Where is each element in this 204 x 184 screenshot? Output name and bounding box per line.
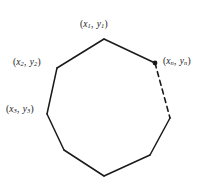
vertex-label-1: (x1, y1) bbox=[80, 20, 108, 30]
polygon-edge bbox=[57, 39, 104, 68]
vertex-label-3: (x3, y3) bbox=[6, 105, 34, 115]
label-2-close-paren: ) bbox=[37, 57, 40, 67]
polygon-figure: (x1, y1) (x2, y2) (x3, y3) (xn, yn) bbox=[0, 0, 204, 184]
vertex-label-2: (x2, y2) bbox=[13, 58, 41, 68]
polygon-vertex-group bbox=[153, 61, 158, 66]
vertex-label-n: (xn, yn) bbox=[163, 57, 191, 67]
polygon-edge-group bbox=[47, 39, 170, 176]
polygon-edge-dashed bbox=[155, 63, 170, 118]
polygon-edge bbox=[64, 150, 104, 176]
label-3-close-paren: ) bbox=[30, 104, 33, 114]
polygon-edge bbox=[104, 155, 150, 176]
polygon-edge bbox=[47, 68, 57, 114]
label-1-close-paren: ) bbox=[104, 19, 107, 29]
polygon-edge bbox=[104, 39, 155, 63]
polygon-edge bbox=[150, 118, 170, 155]
polygon-edge bbox=[47, 114, 64, 150]
label-n-close-paren: ) bbox=[187, 56, 190, 66]
vertex-marker-dot bbox=[153, 61, 158, 66]
